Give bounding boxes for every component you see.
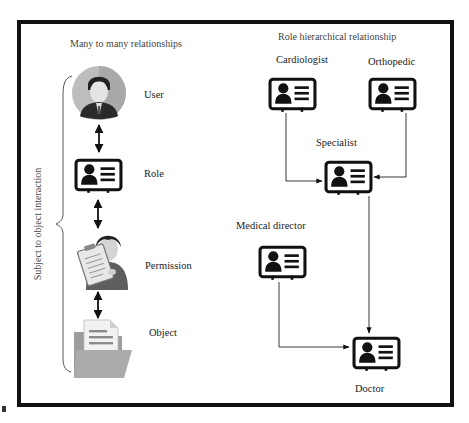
edge-medical-director-doctor xyxy=(279,282,349,347)
medical-director-id-card-icon xyxy=(260,247,305,280)
person-clipboard-icon xyxy=(76,236,128,290)
edge-cardiologist-specialist xyxy=(286,113,322,181)
edge-orthopedic-specialist xyxy=(374,113,406,177)
figure-mark xyxy=(2,406,6,412)
user-avatar-icon xyxy=(72,66,126,120)
orthopedic-id-card-icon xyxy=(370,79,415,112)
folder-document-icon xyxy=(74,320,132,378)
role-id-card-icon xyxy=(76,160,121,193)
specialist-id-card-icon xyxy=(326,162,371,195)
curly-brace xyxy=(56,76,72,372)
doctor-id-card-icon xyxy=(354,338,399,371)
cardiologist-id-card-icon xyxy=(270,79,315,112)
